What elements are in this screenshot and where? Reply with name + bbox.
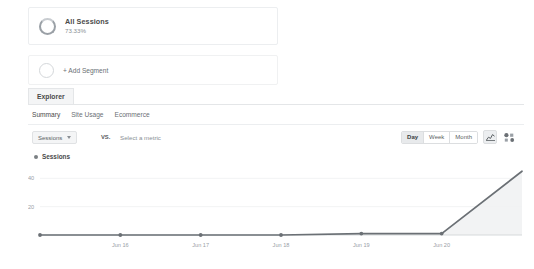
right-controls: Day Week Month bbox=[401, 130, 516, 144]
secondary-metric-selector[interactable]: Select a metric bbox=[120, 134, 161, 141]
data-point-2 bbox=[199, 233, 203, 237]
chart-controls: Sessions VS. Select a metric Day Week Mo… bbox=[28, 125, 524, 151]
subtab-summary[interactable]: Summary bbox=[32, 111, 60, 118]
granularity-month-label: Month bbox=[455, 134, 472, 140]
sessions-line-chart[interactable]: 2040Jun 16Jun 17Jun 18Jun 19Jun 20 bbox=[28, 161, 524, 253]
subtab-summary-label: Summary bbox=[32, 111, 60, 118]
chart-line-sessions bbox=[40, 171, 522, 235]
subtab-ecommerce-label: Ecommerce bbox=[114, 111, 149, 118]
x-tick-label-2: Jun 18 bbox=[273, 242, 290, 248]
segment-card-inner: All Sessions 73.33% bbox=[29, 8, 277, 44]
y-tick-label-1: 40 bbox=[28, 175, 34, 181]
data-point-5 bbox=[440, 232, 444, 236]
granularity-day-button[interactable]: Day bbox=[402, 132, 424, 143]
chart-canvas: 2040Jun 16Jun 17Jun 18Jun 19Jun 20 bbox=[28, 161, 524, 253]
segment-percent: 73.33% bbox=[65, 27, 109, 35]
granularity-month-button[interactable]: Month bbox=[450, 132, 477, 143]
donut-icon bbox=[39, 18, 56, 35]
add-segment-label: + Add Segment bbox=[63, 67, 108, 74]
data-point-0 bbox=[38, 233, 42, 237]
empty-circle-icon bbox=[39, 63, 54, 78]
granularity-button-group: Day Week Month bbox=[401, 131, 478, 144]
tab-row: Explorer bbox=[28, 88, 524, 105]
legend-series-label: Sessions bbox=[42, 153, 70, 160]
subtab-site-usage-label: Site Usage bbox=[71, 111, 103, 118]
vs-label: VS. bbox=[101, 134, 110, 140]
granularity-week-button[interactable]: Week bbox=[424, 132, 450, 143]
y-tick-label-0: 20 bbox=[28, 204, 34, 210]
tab-explorer[interactable]: Explorer bbox=[28, 88, 74, 104]
granularity-week-label: Week bbox=[429, 134, 444, 140]
data-point-3 bbox=[279, 233, 283, 237]
tab-explorer-label: Explorer bbox=[37, 93, 65, 100]
line-chart-icon[interactable] bbox=[483, 130, 497, 144]
segment-text: All Sessions 73.33% bbox=[65, 17, 109, 35]
data-point-4 bbox=[359, 232, 363, 236]
primary-metric-dropdown[interactable]: Sessions bbox=[32, 131, 77, 144]
subtab-site-usage[interactable]: Site Usage bbox=[71, 111, 103, 118]
chart-area-fill bbox=[40, 171, 522, 235]
explorer-panel: Explorer Summary Site Usage Ecommerce Se… bbox=[28, 88, 524, 267]
legend-dot-icon bbox=[34, 155, 38, 159]
chevron-down-icon bbox=[67, 136, 71, 139]
secondary-metric-label: Select a metric bbox=[120, 134, 161, 141]
add-segment-button[interactable]: + Add Segment bbox=[28, 55, 278, 85]
subtab-row: Summary Site Usage Ecommerce bbox=[28, 105, 524, 124]
primary-metric-label: Sessions bbox=[38, 135, 62, 141]
chart-legend: Sessions bbox=[34, 153, 524, 160]
x-tick-label-0: Jun 16 bbox=[112, 242, 129, 248]
subtab-ecommerce[interactable]: Ecommerce bbox=[114, 111, 149, 118]
segment-name: All Sessions bbox=[65, 17, 109, 26]
add-segment-inner: + Add Segment bbox=[29, 56, 277, 84]
x-tick-label-3: Jun 19 bbox=[353, 242, 370, 248]
data-point-1 bbox=[118, 233, 122, 237]
x-tick-label-4: Jun 20 bbox=[433, 242, 450, 248]
granularity-day-label: Day bbox=[407, 134, 418, 140]
x-tick-label-1: Jun 17 bbox=[192, 242, 209, 248]
analytics-audience-overview: All Sessions 73.33% + Add Segment Explor… bbox=[0, 0, 534, 269]
motion-chart-icon[interactable] bbox=[502, 130, 516, 144]
segment-card-all-sessions[interactable]: All Sessions 73.33% bbox=[28, 7, 278, 45]
